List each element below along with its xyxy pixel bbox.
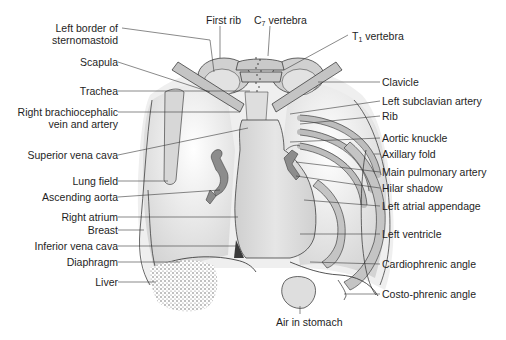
label-costo-phrenic-angle: Costo-phrenic angle xyxy=(382,288,476,300)
label-air-in-stomach: Air in stomach xyxy=(276,316,343,328)
label-inferior-vena-cava: Inferior vena cava xyxy=(35,240,118,252)
label-right-brachiocephalic: Right brachiocephalic vein and artery xyxy=(18,106,118,130)
label-main-pulmonary-artery: Main pulmonary artery xyxy=(382,166,486,178)
label-t1-vertebra: T1 vertebra xyxy=(352,30,404,46)
label-axillary-fold: Axillary fold xyxy=(382,148,436,160)
label-left-border-sternomastoid: Left border of sternomastoid xyxy=(52,22,118,46)
label-first-rib: First rib xyxy=(206,14,241,26)
label-line: vein and artery xyxy=(18,118,118,130)
label-left-atrial-appendage: Left atrial appendage xyxy=(382,200,481,212)
label-clavicle: Clavicle xyxy=(382,76,419,88)
label-liver: Liver xyxy=(95,276,118,288)
label-cardiophrenic-angle: Cardiophrenic angle xyxy=(382,258,476,270)
label-c7-vertebra: C7 vertebra xyxy=(254,14,307,30)
label-trachea: Trachea xyxy=(80,85,118,97)
chest-xray-diagram: Left border of sternomastoid Scapula Tra… xyxy=(0,0,506,340)
label-prefix: C xyxy=(254,14,262,26)
label-rib: Rib xyxy=(382,110,398,122)
label-right-atrium: Right atrium xyxy=(61,211,118,223)
liver-shape xyxy=(150,260,217,311)
label-scapula: Scapula xyxy=(80,56,118,68)
label-lung-field: Lung field xyxy=(72,175,118,187)
label-line: Right brachiocephalic xyxy=(18,106,118,118)
label-line: Left border of xyxy=(52,22,118,34)
label-diaphragm: Diaphragm xyxy=(67,256,118,268)
label-left-subclavian-artery: Left subclavian artery xyxy=(382,95,482,107)
label-superior-vena-cava: Superior vena cava xyxy=(28,149,118,161)
stomach-air-bubble xyxy=(282,277,316,309)
label-suffix: vertebra xyxy=(266,14,307,26)
label-line: sternomastoid xyxy=(52,34,118,46)
label-breast: Breast xyxy=(88,224,118,236)
label-left-ventricle: Left ventricle xyxy=(382,228,442,240)
label-ascending-aorta: Ascending aorta xyxy=(42,191,118,203)
label-aortic-knuckle: Aortic knuckle xyxy=(382,132,447,144)
label-suffix: vertebra xyxy=(362,30,403,42)
label-hilar-shadow: Hilar shadow xyxy=(382,182,443,194)
